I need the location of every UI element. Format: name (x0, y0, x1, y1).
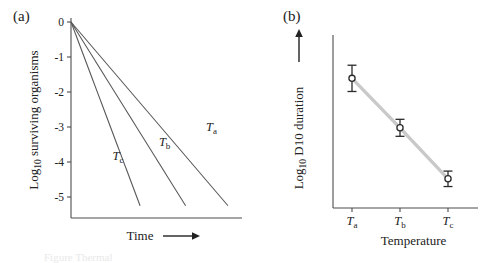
data-point-Tc (445, 176, 451, 182)
x-axis-tick-label-Tc: Tc (443, 214, 454, 230)
figure-container: (a) 0-1-2-3-4-5TaTbTcLog10 surviving org… (0, 0, 484, 263)
x-axis-title: Temperature (381, 233, 447, 248)
y-axis-title: Log10 D10 duration (291, 86, 308, 189)
data-point-Tb (397, 125, 403, 131)
panel-b-plot: TaTbTcTemperatureLog10 D10 duration (0, 0, 484, 263)
figure-caption: Figure Thermal (44, 251, 113, 263)
data-point-Ta (349, 75, 355, 81)
x-axis-tick-label-Tb: Tb (394, 214, 406, 230)
y-axis-arrow-head (295, 29, 303, 37)
x-axis-tick-label-Ta: Ta (347, 214, 358, 230)
